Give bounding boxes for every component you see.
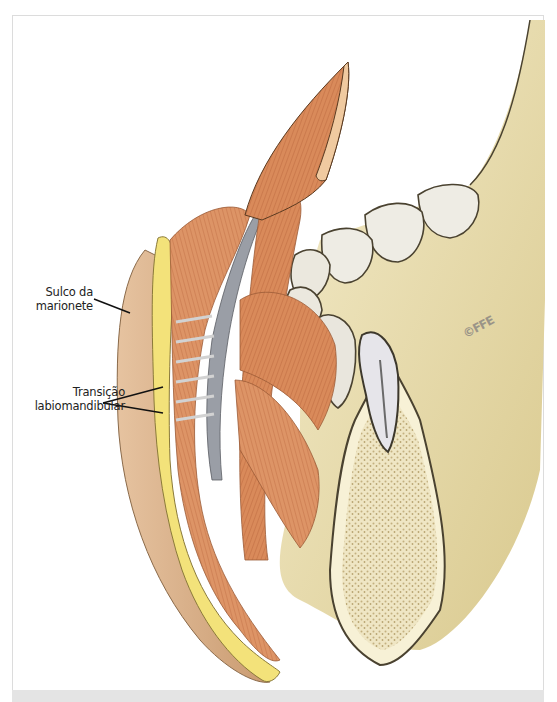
label-line: labiomandibular (20, 399, 125, 413)
label-sulco-da-marionete: Sulco da marionete (20, 285, 93, 313)
label-transicao-labiomandibular: Transição labiomandibular (20, 385, 125, 413)
label-line: marionete (20, 299, 93, 313)
anatomy-illustration (0, 0, 557, 702)
fan-muscle (245, 62, 349, 220)
caption-strip (12, 690, 544, 702)
label-line: Transição (20, 385, 125, 399)
label-line: Sulco da (20, 285, 93, 299)
